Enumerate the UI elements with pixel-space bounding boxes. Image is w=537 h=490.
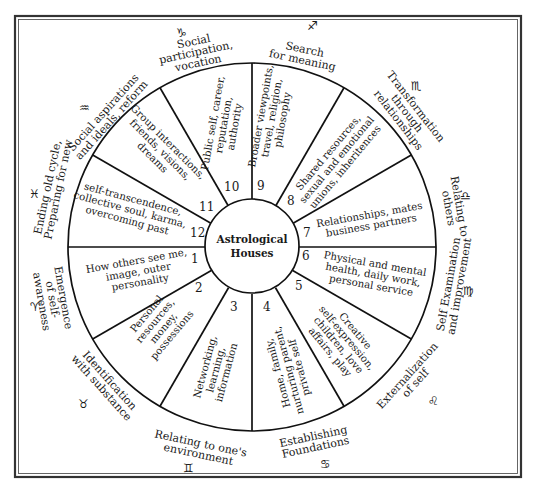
gemini-icon: ♊ [183, 461, 194, 475]
sign-capricorn-label: Socialparticipation,vocation [156, 27, 237, 77]
house-number-2: 2 [195, 281, 203, 295]
svg-text:Searchfor meaning: Searchfor meaning [268, 36, 339, 74]
svg-text:How others see me,image, outer: How others see me,image, outerpersonalit… [85, 246, 192, 296]
house-number-7: 7 [303, 226, 311, 240]
house-number-11: 11 [199, 200, 214, 214]
house-number-4: 4 [263, 300, 271, 314]
house-number-8: 8 [287, 194, 295, 208]
house-3: Networking,learning,information [191, 334, 240, 405]
svg-text:EstablishingFoundations: EstablishingFoundations [278, 423, 351, 461]
house-number-10: 10 [224, 180, 239, 194]
capricorn-icon: ♑ [176, 26, 187, 40]
house-4: Home, family,nurturing parent,private se… [261, 322, 316, 418]
svg-text:Personalresources,money,posses: Personalresources,money,possessions [123, 287, 196, 362]
cancer-icon: ♋ [320, 457, 331, 471]
sign-cancer-label: EstablishingFoundations [278, 423, 351, 461]
house-12: self-transcendence,collective soul, karm… [70, 179, 191, 241]
house-number-3: 3 [230, 300, 238, 314]
pisces-icon: ♓ [29, 187, 40, 201]
aquarius-icon: ♒ [79, 101, 90, 115]
svg-text:Socialparticipation,vocation: Socialparticipation,vocation [156, 27, 237, 77]
house-2: Personalresources,money,possessions [123, 287, 196, 362]
house-number-1: 1 [191, 252, 199, 266]
sagittarius-icon: ♐ [307, 19, 318, 33]
house-number-9: 9 [257, 179, 265, 193]
sign-gemini-label: Relating to one'senvironment [151, 427, 248, 470]
svg-text:Relating toothers: Relating toothers [437, 175, 471, 240]
svg-text:Public self, career,reputation: Public self, career,reputation,authority [199, 75, 248, 175]
house-7: Relationships, matesbusiness partners [316, 200, 426, 240]
svg-text:Group interactions,friends, vi: Group interactions,friends, visions,drea… [113, 102, 207, 196]
leo-icon: ♌ [428, 394, 439, 408]
svg-text:Home, family,nurturing parent,: Home, family,nurturing parent,private se… [261, 322, 316, 418]
center-title-line2: Houses [230, 247, 273, 259]
house-10: Public self, career,reputation,authority [199, 75, 248, 175]
svg-text:Networking,learning,informatio: Networking,learning,information [191, 334, 240, 405]
svg-text:self-transcendence,collective: self-transcendence,collective soul, karm… [70, 179, 191, 241]
sign-libra-label: Relating toothers [437, 175, 471, 240]
inner-circle [205, 199, 299, 293]
astrological-houses-diagram: Astrological Houses How others see me,im… [0, 0, 537, 490]
sign-sagittarius-label: Searchfor meaning [268, 36, 339, 74]
svg-text:Relating to one'senvironment: Relating to one'senvironment [151, 427, 248, 470]
aries-icon: ♈ [30, 300, 41, 314]
house-5: Creativeself-expression,children, loveaf… [300, 296, 385, 386]
svg-text:Broader viewpoints,travel, rel: Broader viewpoints,travel, religion,phil… [246, 64, 297, 172]
house-1: How others see me,image, outerpersonalit… [85, 246, 192, 296]
scorpio-icon: ♏ [411, 79, 422, 93]
virgo-icon: ♍ [463, 284, 474, 298]
libra-icon: ♎ [460, 189, 471, 203]
svg-text:Creativeself-expression,childr: Creativeself-expression,children, loveaf… [300, 296, 385, 386]
house-9: Broader viewpoints,travel, religion,phil… [246, 64, 297, 172]
house-11: Group interactions,friends, visions,drea… [113, 102, 207, 196]
house-number-5: 5 [295, 279, 303, 293]
house-number-12: 12 [190, 226, 205, 240]
center-title-line1: Astrological [216, 233, 288, 245]
sign-taurus-label: Identificationwith substance [68, 345, 142, 424]
svg-text:Physical and mentalhealth, dai: Physical and mentalhealth, daily work,pe… [319, 249, 427, 300]
house-6: Physical and mentalhealth, daily work,pe… [319, 249, 427, 300]
svg-text:Identificationwith substance: Identificationwith substance [68, 345, 142, 424]
house-number-6: 6 [302, 249, 310, 263]
svg-text:Relationships, matesbusiness p: Relationships, matesbusiness partners [316, 200, 426, 240]
taurus-icon: ♉ [78, 397, 89, 411]
